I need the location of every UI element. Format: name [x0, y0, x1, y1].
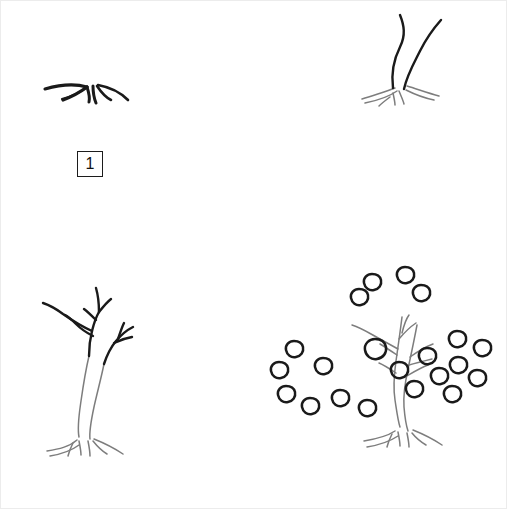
- tree-stage-4-art: [254, 255, 507, 509]
- trunk-and-roots-gray: [47, 356, 123, 456]
- tree-stage-3-art: [1, 255, 254, 509]
- panel-stage-1: 1: [1, 1, 254, 255]
- leaves-dark: [271, 267, 491, 416]
- panel-stage-3: 3: [1, 255, 254, 509]
- root-crown-gray: [362, 86, 439, 106]
- trunk-dark: [392, 15, 441, 89]
- panel-stage-2: 2: [254, 1, 507, 255]
- stage-label-text-1: 1: [86, 156, 95, 172]
- panel-stage-4: 4: [254, 255, 507, 509]
- branches-dark: [43, 288, 133, 364]
- tree-stage-2-art: [254, 1, 507, 255]
- stage-label-box-1: 1: [77, 151, 103, 177]
- tree-stage-1-art: [1, 1, 254, 255]
- figure-root: 1 2: [0, 0, 507, 509]
- tree-body-gray: [352, 315, 442, 447]
- root-crown-dark: [45, 85, 128, 103]
